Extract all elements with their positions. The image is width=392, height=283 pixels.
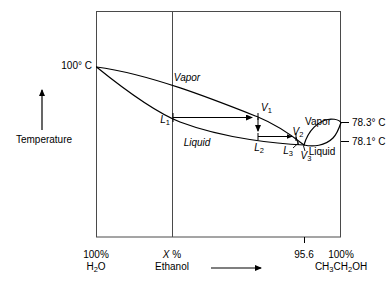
phase-diagram-figure: 100° C 78.3° C 78.1° C Temperature Vapor…: [0, 0, 392, 283]
region-label-vapor-left: Vapor: [174, 72, 200, 83]
x-label-ethanol-percent: 100%: [315, 249, 367, 261]
x-label-water: 100% H2O: [83, 249, 109, 276]
x-label-ethanol-pure: 100% CH3CH2OH: [315, 249, 367, 276]
vapor-curve-left: [97, 67, 305, 145]
region-label-vapor-right: Vapor: [305, 116, 331, 127]
x-label-ethanol: Ethanol: [155, 261, 189, 273]
point-label-L3: L3: [283, 145, 293, 159]
x-label-xpercent-ethanol: X % Ethanol: [155, 249, 189, 273]
y-axis-title: Temperature: [16, 134, 72, 145]
point-label-V1-letter: V: [261, 102, 268, 113]
x-label-water-percent: 100%: [83, 249, 109, 261]
point-label-L1-sub: 1: [166, 118, 170, 127]
point-label-V3-letter: V: [301, 150, 308, 161]
x-label-ethanol-formula: CH3CH2OH: [315, 261, 367, 276]
point-label-V3: V3: [301, 150, 312, 164]
y-tick-label-78-1c: 78.1° C: [352, 136, 385, 147]
point-label-V1-sub: 1: [268, 106, 272, 115]
point-label-V1: V1: [261, 102, 272, 116]
point-label-V3-sub: 3: [307, 154, 311, 163]
point-label-V2-sub: 2: [299, 130, 303, 139]
y-tick-label-78-3c: 78.3° C: [352, 117, 385, 128]
x-label-xpercent: X %: [155, 249, 189, 261]
liquid-curve-left: [97, 67, 305, 145]
point-label-L1: L1: [160, 114, 170, 128]
x-label-x-var: X: [163, 249, 170, 260]
water-O: O: [98, 261, 106, 272]
point-label-L2: L2: [254, 142, 264, 156]
point-label-V2-letter: V: [293, 126, 300, 137]
point-label-V2: V2: [293, 126, 304, 140]
plot-frame: [97, 12, 341, 238]
x-label-x-pct: %: [172, 249, 181, 260]
region-label-liquid-left: Liquid: [184, 137, 211, 148]
point-label-L2-sub: 2: [260, 146, 264, 155]
x-label-water-formula: H2O: [83, 261, 109, 276]
y-tick-label-100c: 100° C: [61, 60, 92, 71]
region-label-liquid-right: Liquid: [309, 146, 336, 157]
x-label-azeotrope: 95.6: [294, 249, 313, 260]
point-label-L3-sub: 3: [289, 149, 293, 158]
